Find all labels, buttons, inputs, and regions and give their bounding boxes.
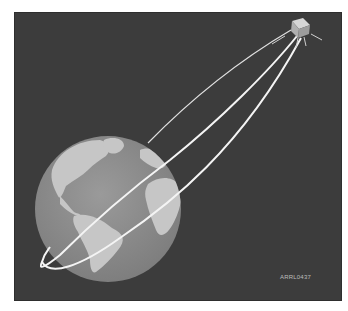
orbit-back-path [148, 30, 291, 143]
satellite-icon [272, 18, 322, 48]
diagram-panel: ARRL0437 [14, 12, 342, 301]
figure-label: ARRL0437 [280, 274, 311, 280]
orbit-diagram [14, 12, 342, 301]
